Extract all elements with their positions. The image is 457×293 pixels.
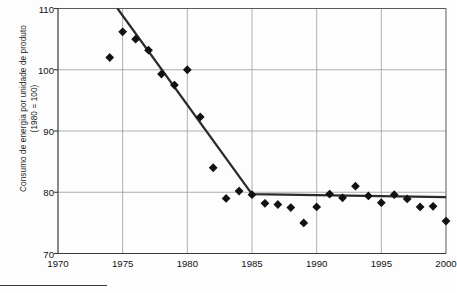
data-point-marker — [119, 28, 126, 35]
data-point-marker — [442, 217, 449, 224]
data-point-marker — [300, 219, 307, 226]
data-point-marker — [235, 187, 242, 194]
data-point-marker — [365, 192, 372, 199]
data-point-marker — [313, 203, 320, 210]
footer-rule — [0, 285, 107, 286]
data-point-marker — [223, 195, 230, 202]
data-point-marker — [378, 199, 385, 206]
data-point-marker — [106, 54, 113, 61]
data-point-marker — [274, 201, 281, 208]
trend-line — [117, 9, 446, 198]
data-point-marker — [287, 204, 294, 211]
data-point-marker — [210, 164, 217, 171]
data-point-marker — [326, 190, 333, 197]
data-point-marker — [417, 203, 424, 210]
data-point-marker — [261, 200, 268, 207]
data-point-marker — [429, 203, 436, 210]
data-point-marker — [352, 183, 359, 190]
data-point-marker — [184, 66, 191, 73]
